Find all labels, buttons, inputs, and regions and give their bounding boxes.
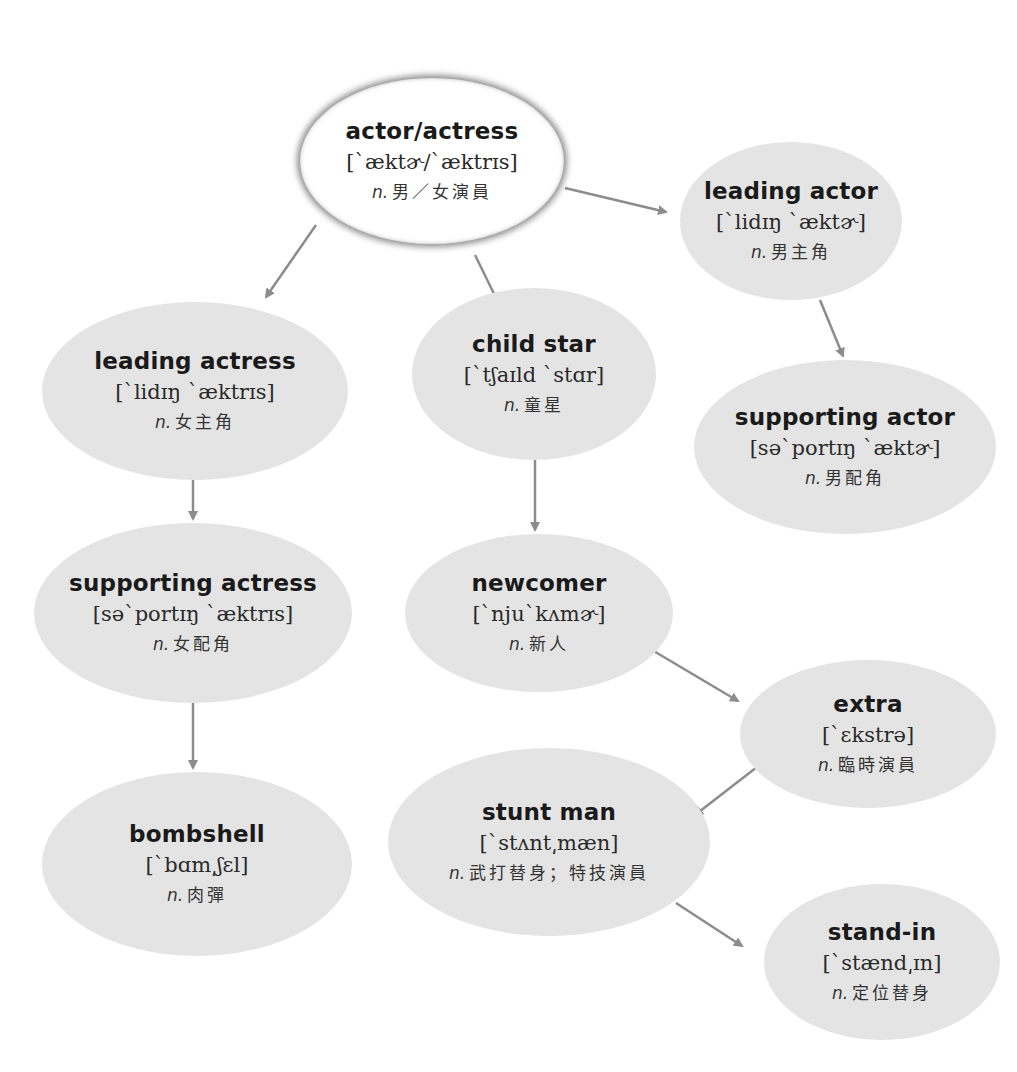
node-definition: n.男主角 xyxy=(751,238,831,266)
node-pronunciation: [`stʌnt͵mæn] xyxy=(480,827,619,859)
edge-extra-to-stunt-man xyxy=(695,767,757,815)
part-of-speech: n. xyxy=(751,242,767,262)
node-pronunciation: [`lidɪŋ `æktɚ] xyxy=(716,206,866,238)
node-definition: n.男配角 xyxy=(805,464,885,492)
node-term: leading actress xyxy=(94,346,296,376)
meaning: 肉彈 xyxy=(187,885,227,905)
meaning: 男主角 xyxy=(771,242,831,262)
mind-map-canvas: actor/actress [`æktɚ/`æktrɪs] n.男／女演員 le… xyxy=(0,0,1017,1072)
node-newcomer: newcomer [`nju`kʌmɚ] n.新人 xyxy=(405,534,673,692)
part-of-speech: n. xyxy=(167,885,183,905)
node-pronunciation: [sə`portɪŋ `æktɚ] xyxy=(750,432,941,464)
meaning: 定位替身 xyxy=(852,983,932,1003)
edge-stunt-man-to-stand-in xyxy=(676,903,742,946)
node-supporting-actress: supporting actress [sə`portɪŋ `æktrɪs] n… xyxy=(34,523,352,703)
node-definition: n.童星 xyxy=(504,391,564,419)
part-of-speech: n. xyxy=(372,182,388,202)
node-term: supporting actor xyxy=(735,402,955,432)
meaning: 女配角 xyxy=(173,634,233,654)
node-definition: n.臨時演員 xyxy=(818,751,918,779)
node-term: leading actor xyxy=(704,176,878,206)
node-term: extra xyxy=(833,689,902,719)
node-pronunciation: [`tʃaɪld `stɑr] xyxy=(464,359,604,391)
node-pronunciation: [sə`portɪŋ `æktrɪs] xyxy=(93,598,294,630)
part-of-speech: n. xyxy=(153,634,169,654)
part-of-speech: n. xyxy=(805,468,821,488)
node-definition: n.肉彈 xyxy=(167,881,227,909)
node-term: newcomer xyxy=(471,568,606,598)
node-extra: extra [`ɛkstrə] n.臨時演員 xyxy=(740,660,996,808)
node-stand-in: stand-in [`stænd͵ɪn] n.定位替身 xyxy=(764,884,1000,1040)
node-child-star: child star [`tʃaɪld `stɑr] n.童星 xyxy=(412,288,656,460)
node-definition: n.新人 xyxy=(509,630,569,658)
meaning: 女主角 xyxy=(175,412,235,432)
node-pronunciation: [`lidɪŋ `æktrɪs] xyxy=(115,376,275,408)
node-definition: n.女主角 xyxy=(155,408,235,436)
meaning: 新人 xyxy=(529,634,569,654)
node-pronunciation: [`nju`kʌmɚ] xyxy=(472,598,605,630)
node-definition: n.定位替身 xyxy=(832,979,932,1007)
node-pronunciation: [`æktɚ/`æktrɪs] xyxy=(346,146,518,178)
edge-newcomer-to-extra xyxy=(652,650,738,701)
node-definition: n.女配角 xyxy=(153,630,233,658)
node-pronunciation: [`stænd͵ɪn] xyxy=(823,947,942,979)
edge-leading-actor-to-supporting-actor xyxy=(820,300,843,356)
meaning: 童星 xyxy=(524,395,564,415)
meaning: 男配角 xyxy=(825,468,885,488)
meaning: 臨時演員 xyxy=(838,755,918,775)
part-of-speech: n. xyxy=(449,863,465,883)
node-definition: n.男／女演員 xyxy=(372,178,492,206)
part-of-speech: n. xyxy=(818,755,834,775)
node-leading-actress: leading actress [`lidɪŋ `æktrɪs] n.女主角 xyxy=(42,302,348,480)
node-stunt-man: stunt man [`stʌnt͵mæn] n.武打替身；特技演員 xyxy=(388,748,710,936)
meaning: 武打替身；特技演員 xyxy=(469,863,649,883)
edge-actor-to-leading-actor xyxy=(565,188,666,212)
part-of-speech: n. xyxy=(155,412,171,432)
node-bombshell: bombshell [`bɑm͵ʃɛl] n.肉彈 xyxy=(42,772,352,956)
node-term: bombshell xyxy=(129,819,265,849)
part-of-speech: n. xyxy=(504,395,520,415)
node-term: stand-in xyxy=(828,917,936,947)
node-supporting-actor: supporting actor [sə`portɪŋ `æktɚ] n.男配角 xyxy=(694,360,996,534)
node-pronunciation: [`ɛkstrə] xyxy=(822,719,914,751)
node-term: supporting actress xyxy=(69,568,317,598)
meaning: 男／女演員 xyxy=(392,182,492,202)
part-of-speech: n. xyxy=(509,634,525,654)
node-definition: n.武打替身；特技演員 xyxy=(449,859,649,887)
edge-actor-to-leading-actress xyxy=(266,225,316,297)
node-leading-actor: leading actor [`lidɪŋ `æktɚ] n.男主角 xyxy=(680,142,902,300)
node-term: child star xyxy=(472,329,596,359)
node-term: stunt man xyxy=(482,797,616,827)
node-pronunciation: [`bɑm͵ʃɛl] xyxy=(146,849,249,881)
node-term: actor/actress xyxy=(346,116,519,146)
part-of-speech: n. xyxy=(832,983,848,1003)
node-actor-actress: actor/actress [`æktɚ/`æktrɪs] n.男／女演員 xyxy=(300,78,564,244)
